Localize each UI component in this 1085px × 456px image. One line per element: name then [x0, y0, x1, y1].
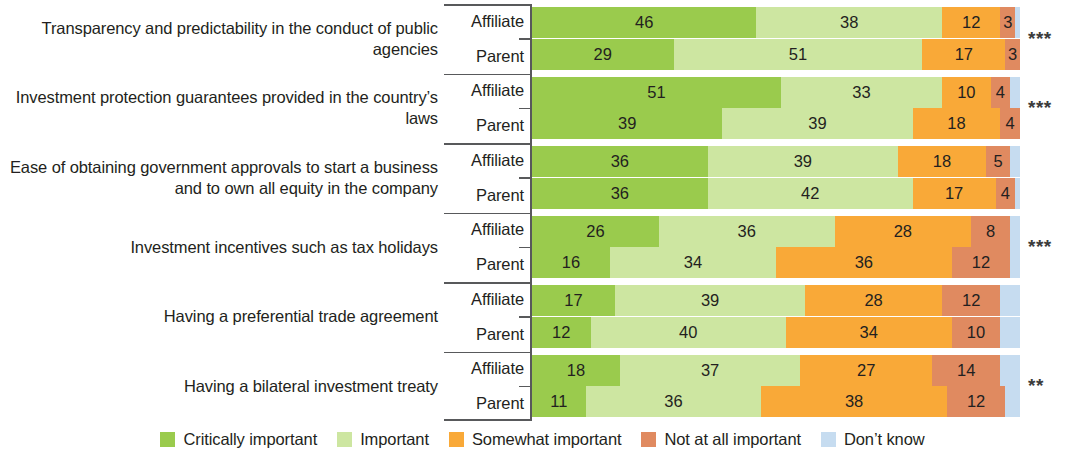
subgroup-tick-column: AffiliateParent — [444, 282, 530, 352]
category-label: Ease of obtaining government approvals t… — [6, 143, 438, 213]
bar-segment-value: 36 — [738, 222, 756, 241]
bar-affiliate: 3639185 — [532, 146, 1020, 177]
bar-segment-value: 28 — [894, 222, 912, 241]
bar-segment: 36 — [776, 247, 952, 278]
bar-stack-container: 1739281212403410 — [532, 282, 1020, 352]
bar-segment-value: 10 — [967, 323, 985, 342]
bar-affiliate: 5133104 — [532, 77, 1020, 108]
bar-segment-value: 39 — [701, 291, 719, 310]
bar-segment: 4 — [996, 178, 1016, 209]
group-separator-line — [444, 213, 532, 215]
bar-segment-value: 37 — [701, 361, 719, 380]
bar-segment: 12 — [532, 317, 591, 348]
bar-segment-value: 51 — [789, 45, 807, 64]
bar-stack-container: 263628816343612 — [532, 213, 1020, 283]
bar-segment: 34 — [786, 317, 952, 348]
legend-item[interactable]: Somewhat important — [449, 430, 622, 449]
subgroup-label-parent: Parent — [444, 386, 524, 421]
group-separator-line — [444, 419, 532, 421]
legend-item[interactable]: Don’t know — [821, 430, 925, 449]
bar-segment: 40 — [591, 317, 786, 348]
subgroup-label-affiliate: Affiliate — [444, 213, 524, 248]
bar-segment-value: 39 — [808, 114, 826, 133]
category-label: Investment incentives such as tax holida… — [6, 213, 438, 283]
bar-parent: 16343612 — [532, 247, 1020, 278]
chart-group-row: Investment incentives such as tax holida… — [0, 213, 1085, 283]
legend-swatch-icon — [160, 432, 175, 447]
significance-marker: *** — [1028, 74, 1080, 144]
category-label: Having a preferential trade agreement — [6, 282, 438, 352]
bar-segment: 4 — [991, 77, 1011, 108]
subgroup-tick-column: AffiliateParent — [444, 352, 530, 422]
bar-segment-value: 17 — [955, 45, 973, 64]
bar-segment: 3 — [1005, 39, 1020, 70]
bar-segment-value: 3 — [1008, 45, 1017, 64]
bar-segment: 51 — [674, 39, 923, 70]
bar-segment — [1010, 146, 1020, 177]
bar-segment — [1010, 216, 1020, 247]
group-separator-line — [444, 352, 532, 354]
bar-parent: 11363812 — [532, 386, 1020, 417]
bar-segment: 38 — [756, 7, 941, 38]
bar-segment-value: 17 — [945, 184, 963, 203]
subgroup-label-parent: Parent — [444, 178, 524, 213]
bar-segment: 16 — [532, 247, 610, 278]
bar-segment-value: 4 — [996, 83, 1005, 102]
bar-segment-value: 26 — [586, 222, 604, 241]
bar-segment: 18 — [913, 108, 1001, 139]
bar-segment: 11 — [532, 386, 586, 417]
bar-segment-value: 34 — [684, 253, 702, 272]
subgroup-tick-column: AffiliateParent — [444, 213, 530, 283]
legend-item[interactable]: Critically important — [160, 430, 317, 449]
subgroup-tick-column: AffiliateParent — [444, 4, 530, 74]
bar-segment-value: 12 — [962, 13, 980, 32]
bar-segment: 34 — [610, 247, 776, 278]
bar-segment — [1015, 7, 1020, 38]
subgroup-label-parent: Parent — [444, 247, 524, 282]
bar-segment — [1000, 285, 1020, 316]
legend-label: Somewhat important — [472, 430, 622, 449]
subgroup-label-parent: Parent — [444, 39, 524, 74]
bar-segment-value: 36 — [855, 253, 873, 272]
legend-label: Important — [360, 430, 429, 449]
bar-stack-container: 1837271411363812 — [532, 352, 1020, 422]
subgroup-label-parent: Parent — [444, 317, 524, 352]
bar-segment-value: 18 — [947, 114, 965, 133]
bar-segment-value: 28 — [864, 291, 882, 310]
category-label: Having a bilateral investment treaty — [6, 352, 438, 422]
legend-item[interactable]: Important — [337, 430, 429, 449]
legend-label: Not at all important — [664, 430, 800, 449]
bar-segment-value: 8 — [986, 222, 995, 241]
bar-segment: 12 — [942, 7, 1001, 38]
bar-segment — [1015, 178, 1020, 209]
bar-segment — [1010, 77, 1020, 108]
bar-segment-value: 42 — [801, 184, 819, 203]
bar-segment-value: 46 — [635, 13, 653, 32]
group-separator-line — [444, 143, 532, 145]
subgroup-label-parent: Parent — [444, 108, 524, 143]
bar-parent: 2951173 — [532, 39, 1020, 70]
bar-segment-value: 4 — [1001, 184, 1010, 203]
bar-segment-value: 5 — [993, 152, 1002, 171]
bar-segment-value: 18 — [933, 152, 951, 171]
category-label: Transparency and predictability in the c… — [6, 4, 438, 74]
significance-marker — [1028, 143, 1080, 213]
bar-segment: 4 — [1000, 108, 1020, 139]
bar-segment-value: 51 — [647, 83, 665, 102]
significance-marker — [1028, 282, 1080, 352]
bar-segment: 38 — [761, 386, 946, 417]
subgroup-label-affiliate: Affiliate — [444, 143, 524, 178]
bar-segment: 28 — [835, 216, 972, 247]
legend-item[interactable]: Not at all important — [641, 430, 800, 449]
bar-segment-value: 38 — [845, 392, 863, 411]
bar-segment-value: 11 — [550, 392, 567, 411]
chart-group-row: Investment protection guarantees provide… — [0, 74, 1085, 144]
bar-segment: 12 — [942, 285, 1001, 316]
bar-stack-container: 46381232951173 — [532, 4, 1020, 74]
subgroup-label-affiliate: Affiliate — [444, 352, 524, 387]
chart-group-row: Having a preferential trade agreementAff… — [0, 282, 1085, 352]
bar-segment-value: 10 — [957, 83, 975, 102]
bar-segment-value: 36 — [611, 184, 629, 203]
significance-marker: *** — [1028, 213, 1080, 283]
significance-marker: *** — [1028, 4, 1080, 74]
